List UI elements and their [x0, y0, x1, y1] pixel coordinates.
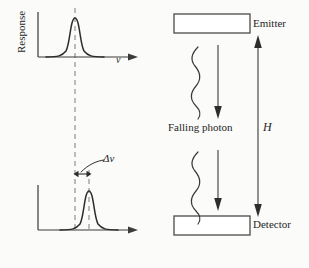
top-response-plot: Response ν: [0, 0, 160, 134]
photon-direction-arrow-upper-head: [214, 106, 222, 119]
photon-wave-upper: [192, 47, 201, 119]
physics-figure: Response ν Response ν Δν: [0, 0, 309, 268]
height-measure-bottom-arrowhead: [254, 204, 262, 217]
bottom-response-plot: Response ν: [0, 134, 160, 268]
delta-nu-label: Δν: [103, 153, 114, 164]
bottom-plot-x-axis-arrowhead: [128, 226, 138, 233]
photon-direction-arrow-lower-head: [214, 198, 222, 211]
delta-nu-leader-line: [81, 160, 104, 172]
photon-wave-lower: [192, 152, 201, 224]
top-plot-y-axis-label: Response: [16, 11, 27, 53]
falling-photon-label: Falling photon: [168, 122, 232, 133]
top-plot-x-axis-arrowhead: [128, 53, 138, 60]
bottom-plot-canvas: [0, 134, 160, 268]
top-plot-x-axis-label: ν: [116, 55, 120, 65]
height-measure-top-arrowhead: [254, 35, 262, 48]
detector-box: [174, 216, 250, 235]
delta-nu-left-arrowhead: [74, 171, 79, 177]
detector-label: Detector: [253, 219, 291, 230]
emitter-label: Emitter: [253, 18, 286, 29]
emitter-box: [174, 14, 250, 33]
height-label: H: [263, 121, 272, 133]
